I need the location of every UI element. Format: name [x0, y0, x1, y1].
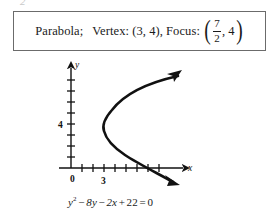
vertex-label: Vertex:	[92, 24, 129, 39]
origin-label: 0	[70, 174, 75, 184]
y-tick-label-4: 4	[58, 120, 63, 130]
equation-equals: =	[138, 196, 147, 208]
conic-equation: y2−8y−2x+22=0	[68, 196, 153, 208]
focus-close-paren: )	[236, 20, 243, 42]
answer-text: Parabola; Vertex: (3, 4) , Focus: ( 7 2 …	[35, 18, 244, 43]
equation-zero: 0	[147, 196, 153, 208]
equation-term-2x: 2x	[106, 196, 117, 208]
x-axis	[59, 164, 183, 172]
parabola-lower-arrowhead	[165, 175, 180, 186]
focus-open-paren: (	[204, 20, 211, 42]
equation-minus-1: −	[77, 196, 86, 208]
equation-plus: +	[117, 196, 126, 208]
graph-figure: y x 0 3 4	[55, 55, 205, 190]
parabola-upper-arrowhead	[167, 70, 182, 82]
y-axis-label: y	[74, 60, 80, 70]
focus-y-value: 4	[228, 24, 234, 39]
vertex-point: (3, 4)	[132, 24, 160, 39]
equation-constant: 22	[127, 196, 138, 208]
x-axis-label: x	[187, 163, 193, 173]
x-tick-label-3: 3	[101, 176, 106, 186]
fraction-numerator: 7	[213, 18, 221, 29]
vertex-focus-separator: ,	[160, 24, 163, 39]
y-axis	[67, 68, 75, 168]
coordinate-plot: y x 0 3 4	[55, 55, 205, 190]
focus-coordinate-separator: ,	[222, 24, 225, 39]
equation-term-8y: 8y	[86, 196, 97, 208]
fraction-denominator: 2	[213, 33, 221, 44]
answer-box: Parabola; Vertex: (3, 4) , Focus: ( 7 2 …	[13, 11, 266, 51]
conic-classification: Parabola;	[35, 24, 83, 39]
focus-label: Focus:	[166, 24, 200, 39]
equation-minus-2: −	[97, 196, 106, 208]
clipped-superscript-artifact: 2	[20, 0, 26, 6]
focus-x-fraction: 7 2	[213, 18, 221, 43]
